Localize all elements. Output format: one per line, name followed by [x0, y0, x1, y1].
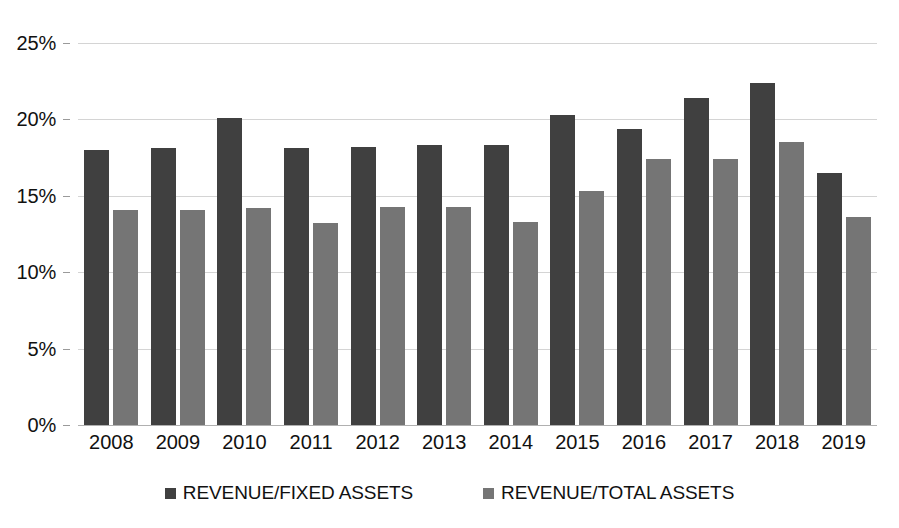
y-tick-label: 5%	[27, 339, 56, 359]
y-tick-mark	[63, 425, 70, 426]
bar-2011-fixed-assets	[284, 148, 309, 425]
bar-2017-fixed-assets	[684, 98, 709, 425]
bar-2015-total-assets	[579, 191, 604, 425]
y-tick-label: 25%	[17, 33, 56, 53]
x-axis: 2008200920102011201220132014201520162017…	[78, 430, 877, 462]
legend-label: REVENUE/FIXED ASSETS	[183, 482, 413, 504]
y-tick-mark	[63, 272, 70, 273]
plot-area	[78, 43, 877, 425]
x-tick-label-2017: 2017	[688, 430, 733, 454]
bar-2010-fixed-assets	[217, 118, 242, 425]
bar-2013-fixed-assets	[417, 145, 442, 425]
y-axis: 0%5%10%15%20%25%	[0, 0, 70, 528]
bar-2009-fixed-assets	[151, 148, 176, 425]
bar-2012-fixed-assets	[351, 147, 376, 425]
gridline-0	[78, 425, 877, 426]
bar-2016-total-assets	[646, 159, 671, 425]
y-tick-mark	[63, 196, 70, 197]
y-tick-mark	[63, 349, 70, 350]
bar-2010-total-assets	[246, 208, 271, 425]
bar-2017-total-assets	[713, 159, 738, 425]
bar-2019-fixed-assets	[817, 173, 842, 425]
bar-2015-fixed-assets	[550, 115, 575, 425]
legend-entry-total-assets[interactable]: REVENUE/TOTAL ASSETS	[483, 482, 734, 504]
bar-2016-fixed-assets	[617, 129, 642, 425]
x-tick-label-2013: 2013	[422, 430, 467, 454]
y-tick-label: 10%	[17, 262, 56, 282]
bar-2012-total-assets	[380, 207, 405, 426]
bar-2018-fixed-assets	[750, 83, 775, 425]
bar-2014-fixed-assets	[484, 145, 509, 425]
bar-2019-total-assets	[846, 217, 871, 425]
legend: REVENUE/FIXED ASSETSREVENUE/TOTAL ASSETS	[0, 478, 899, 508]
x-tick-label-2016: 2016	[622, 430, 667, 454]
x-tick-label-2011: 2011	[290, 430, 333, 454]
bar-2014-total-assets	[513, 222, 538, 425]
bar-2008-total-assets	[113, 210, 138, 425]
y-tick-label: 20%	[17, 109, 56, 129]
bar-2009-total-assets	[180, 210, 205, 425]
x-tick-label-2019: 2019	[821, 430, 866, 454]
legend-swatch-icon	[165, 488, 176, 499]
x-tick-label-2008: 2008	[89, 430, 134, 454]
bar-2013-total-assets	[446, 207, 471, 426]
y-tick-label: 15%	[17, 186, 56, 206]
x-tick-label-2015: 2015	[555, 430, 600, 454]
x-tick-label-2014: 2014	[489, 430, 534, 454]
legend-swatch-icon	[483, 488, 494, 499]
x-tick-label-2009: 2009	[156, 430, 201, 454]
bar-2018-total-assets	[779, 142, 804, 425]
bar-2011-total-assets	[313, 223, 338, 425]
bar-chart: 0%5%10%15%20%25% 20082009201020112012201…	[0, 0, 899, 528]
legend-entry-fixed-assets[interactable]: REVENUE/FIXED ASSETS	[165, 482, 413, 504]
x-tick-label-2012: 2012	[355, 430, 400, 454]
y-tick-mark	[63, 43, 70, 44]
y-tick-label: 0%	[27, 415, 56, 435]
bar-2008-fixed-assets	[84, 150, 109, 425]
x-tick-label-2010: 2010	[222, 430, 267, 454]
y-tick-mark	[63, 119, 70, 120]
legend-label: REVENUE/TOTAL ASSETS	[501, 482, 734, 504]
x-tick-label-2018: 2018	[755, 430, 800, 454]
bars-layer	[78, 43, 877, 425]
